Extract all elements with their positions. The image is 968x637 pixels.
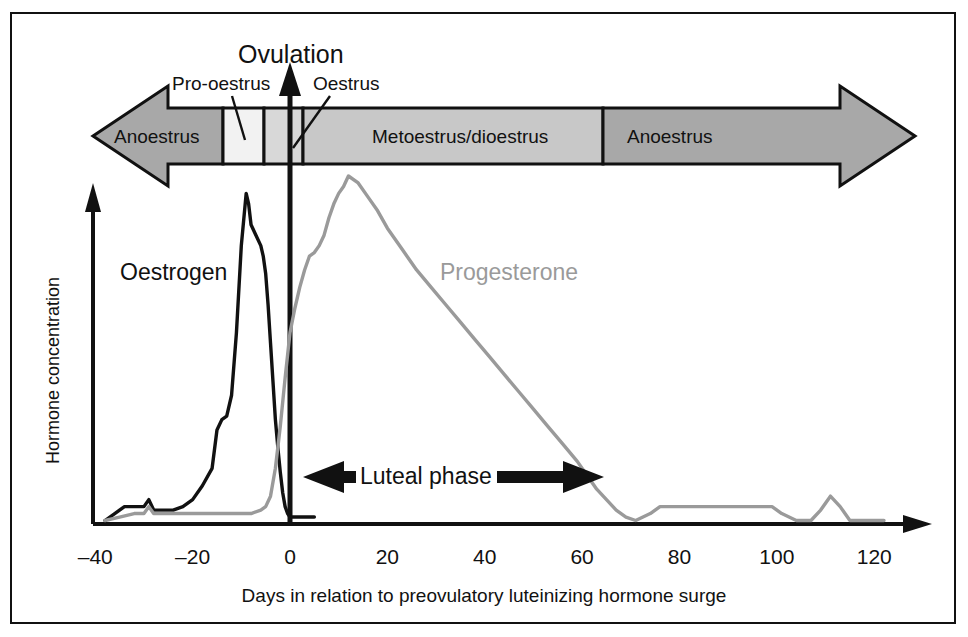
x-axis-title: Days in relation to preovulatory luteini… [0,585,968,607]
x-tick-100: 100 [742,545,812,569]
oestrogen-series-label: Oestrogen [120,259,227,286]
phase-band-oestrus [264,108,303,164]
hormone-cycle-figure: Ovulation Pro-oestrus Oestrus Anoestrus … [0,0,968,637]
x-tick-80: 80 [645,545,715,569]
x-tick-120: 120 [839,545,909,569]
y-axis-title: Hormone concentration [43,261,64,481]
x-tick-20: 20 [352,545,422,569]
oestrus-label: Oestrus [313,73,380,95]
pro-oestrus-label: Pro-oestrus [172,73,270,95]
x-tick--40: –40 [60,545,130,569]
x-tick--20: –20 [158,545,228,569]
x-tick-60: 60 [547,545,617,569]
anoestrus-right-label: Anoestrus [627,126,713,148]
chart-canvas [0,0,968,637]
progesterone-curve [105,176,884,521]
oestrogen-curve [105,193,314,520]
metoestrus-label: Metoestrus/dioestrus [372,126,548,148]
ovulation-label: Ovulation [238,40,344,69]
progesterone-series-label: Progesterone [440,259,578,286]
data-series-group [105,176,884,521]
luteal-phase-label: Luteal phase [360,463,492,490]
x-tick-40: 40 [450,545,520,569]
x-tick-0: 0 [255,545,325,569]
anoestrus-left-label: Anoestrus [114,126,200,148]
